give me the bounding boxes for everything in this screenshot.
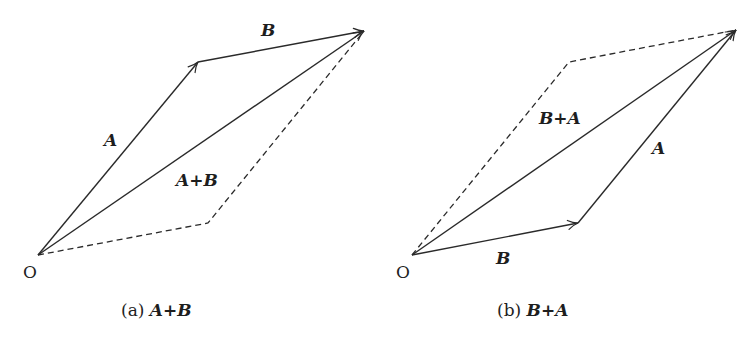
vector-addition-diagram: B A A+B O (a) A+B B+A A B O (b) B+A xyxy=(0,0,756,346)
resultant-arrow xyxy=(38,31,364,255)
panel-b: B+A A B O (b) B+A xyxy=(396,30,736,320)
vector-b-arrow xyxy=(412,223,578,255)
caption-b-expr: B+A xyxy=(526,300,569,320)
caption-b-prefix: (b) xyxy=(497,300,527,320)
resultant-label: A+B xyxy=(174,170,218,190)
vector-a-arrow xyxy=(578,30,736,223)
panel-a: B A A+B O (a) A+B xyxy=(23,20,364,320)
caption-b: (b) B+A xyxy=(497,300,568,320)
resultant-label: B+A xyxy=(538,108,581,128)
caption-a-expr: A+B xyxy=(148,300,192,320)
origin-label: O xyxy=(396,262,410,282)
vector-a-label: A xyxy=(650,138,665,158)
vector-a-arrow xyxy=(38,62,198,255)
vector-a-label: A xyxy=(102,130,117,150)
caption-a-prefix: (a) xyxy=(121,300,150,320)
vector-b-label: B xyxy=(260,20,275,40)
origin-label: O xyxy=(23,262,37,282)
vector-b-arrow xyxy=(198,31,364,62)
resultant-arrow xyxy=(412,30,736,255)
caption-a: (a) A+B xyxy=(121,300,192,320)
vector-b-label: B xyxy=(495,248,510,268)
